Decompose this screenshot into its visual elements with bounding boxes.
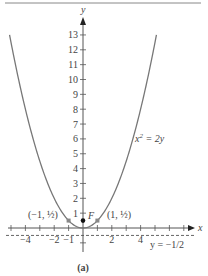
x-tick-label: 2: [109, 234, 114, 245]
y-tick-label: 9: [73, 89, 78, 100]
y-tick-label: 11: [68, 59, 78, 70]
y-tick-label: 4: [73, 163, 78, 174]
y-tick-label: 1: [73, 208, 78, 219]
figure-caption: (a): [77, 262, 89, 274]
y-tick-label: 7: [73, 119, 78, 130]
x-tick-label: −2: [49, 234, 60, 245]
y-axis-arrow-icon: [80, 17, 86, 25]
directrix-label: y = −1/2: [150, 239, 184, 250]
x-axis-arrow-icon: [188, 225, 195, 231]
y-tick-label: 5: [73, 148, 78, 159]
y-tick-label: 10: [68, 74, 78, 85]
point-right-label: (1, ½): [107, 209, 131, 221]
y-tick-label: 12: [68, 44, 78, 55]
y-tick-label: 8: [73, 104, 78, 115]
point-left-label: (−1, ½): [28, 209, 58, 221]
y-tick-label: 2: [73, 193, 78, 204]
y-tick-label: 6: [73, 133, 78, 144]
x-axis-label: x: [197, 222, 203, 233]
parabola-chart: xy−4−2−12412345678910111213x2 = 2yF(−1, …: [0, 0, 208, 276]
y-axis-label: y: [80, 4, 86, 15]
x-tick-label: −1: [63, 234, 74, 245]
x-tick-label: −4: [20, 234, 31, 245]
point-right-marker: [95, 219, 99, 223]
point-left-marker: [67, 219, 71, 223]
x-tick-label: 4: [138, 234, 143, 245]
y-tick-label: 3: [73, 178, 78, 189]
focus-point: [81, 218, 86, 223]
equation-label: x2 = 2y: [134, 132, 165, 144]
focus-label: F: [87, 210, 95, 221]
y-tick-label: 13: [68, 29, 78, 40]
